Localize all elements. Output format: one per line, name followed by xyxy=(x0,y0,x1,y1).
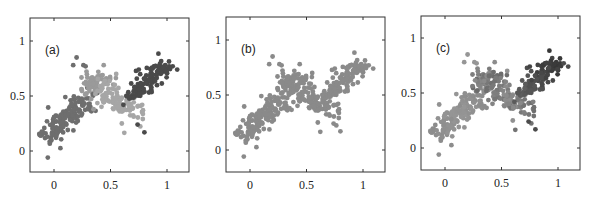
data-point xyxy=(334,90,339,95)
data-point xyxy=(532,109,537,114)
data-point xyxy=(493,75,498,80)
data-point xyxy=(449,117,454,122)
data-point xyxy=(141,87,146,92)
data-point xyxy=(512,99,517,104)
data-point xyxy=(357,64,362,69)
data-point xyxy=(511,105,516,110)
data-point xyxy=(527,112,532,117)
data-point xyxy=(529,69,534,74)
panel-label: (b) xyxy=(241,42,256,56)
data-point xyxy=(275,95,280,100)
data-point xyxy=(440,134,445,139)
data-point xyxy=(141,112,146,117)
scatter-plot-c: 00.5100.51(c) xyxy=(394,0,591,198)
data-point xyxy=(345,84,350,89)
data-point xyxy=(328,84,333,89)
data-point xyxy=(503,79,508,84)
data-point xyxy=(46,105,51,110)
data-point xyxy=(493,97,498,102)
data-point xyxy=(136,115,141,120)
y-tick-label: 0 xyxy=(215,143,221,157)
data-point xyxy=(498,76,503,81)
data-point xyxy=(110,91,115,96)
data-point xyxy=(45,134,50,139)
data-point xyxy=(50,126,55,131)
data-point xyxy=(71,108,76,113)
data-point xyxy=(555,67,560,72)
data-point xyxy=(363,58,368,63)
data-point xyxy=(267,127,272,132)
data-point xyxy=(122,130,127,135)
data-point xyxy=(304,74,309,79)
data-point xyxy=(475,88,480,93)
data-point xyxy=(449,143,454,148)
data-point xyxy=(325,80,330,85)
y-tick-label: 0.5 xyxy=(206,88,221,102)
data-point xyxy=(318,129,323,134)
data-point xyxy=(265,100,270,105)
data-point xyxy=(144,66,149,71)
data-point xyxy=(153,79,158,84)
data-point xyxy=(102,78,107,83)
data-point xyxy=(142,130,147,135)
data-point xyxy=(441,123,446,128)
data-point xyxy=(338,75,343,80)
plot-frame xyxy=(421,16,580,170)
data-point xyxy=(310,71,315,76)
data-point xyxy=(255,111,260,116)
x-tick-label: 0 xyxy=(442,176,448,190)
data-point xyxy=(461,110,466,115)
data-point xyxy=(308,86,313,91)
data-point xyxy=(345,89,350,94)
data-point xyxy=(45,119,50,124)
data-point xyxy=(84,91,89,96)
data-point xyxy=(121,102,126,107)
data-point xyxy=(360,74,365,79)
data-point xyxy=(149,90,154,95)
data-point xyxy=(254,145,259,150)
data-point xyxy=(140,117,145,122)
y-tick-label: 0.5 xyxy=(10,89,25,103)
data-point xyxy=(89,97,94,102)
data-point xyxy=(349,63,354,68)
data-point xyxy=(153,64,158,69)
y-tick-label: 0.5 xyxy=(401,86,416,100)
data-point xyxy=(71,128,76,133)
data-point xyxy=(280,90,285,95)
data-point xyxy=(112,87,117,92)
data-point xyxy=(159,81,164,86)
data-point xyxy=(552,62,557,67)
data-point xyxy=(463,91,468,96)
data-point xyxy=(529,78,534,83)
data-point xyxy=(487,66,492,71)
data-point xyxy=(522,110,527,115)
data-point xyxy=(355,80,360,85)
data-point xyxy=(91,82,96,87)
data-point xyxy=(245,136,250,141)
data-point xyxy=(86,106,91,111)
data-point xyxy=(287,106,292,111)
data-point xyxy=(366,63,371,68)
panel-c: 00.5100.51(c) xyxy=(394,0,591,198)
data-point xyxy=(138,81,143,86)
data-point xyxy=(101,63,106,68)
data-point xyxy=(332,114,337,119)
y-tick-label: 1 xyxy=(215,33,221,47)
data-point xyxy=(100,86,105,91)
data-point xyxy=(161,65,166,70)
data-point xyxy=(352,50,357,55)
data-point xyxy=(465,52,470,57)
y-tick-label: 0 xyxy=(19,144,25,158)
data-point xyxy=(547,48,552,53)
data-point xyxy=(462,125,467,130)
data-point xyxy=(492,90,497,95)
data-point xyxy=(352,67,357,72)
data-point xyxy=(37,133,42,138)
data-point xyxy=(267,62,272,67)
data-point xyxy=(539,75,544,80)
data-point xyxy=(492,60,497,65)
data-point xyxy=(491,83,496,88)
data-point xyxy=(531,114,536,119)
data-point xyxy=(504,93,509,98)
data-point xyxy=(445,130,450,135)
